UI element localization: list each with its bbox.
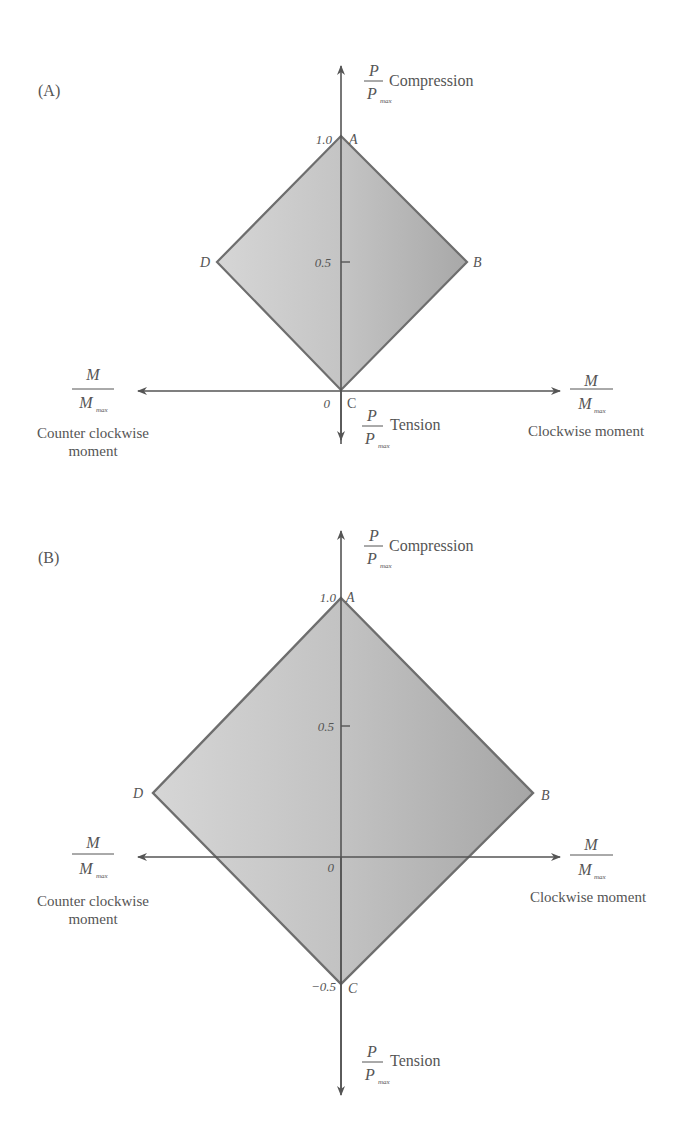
svg-text:P: P	[368, 527, 379, 544]
svg-text:P: P	[366, 85, 377, 102]
svg-text:max: max	[594, 873, 607, 881]
vertex-d: D	[132, 786, 143, 801]
svg-text:P: P	[366, 407, 377, 424]
tick-label-1-0: 1.0	[320, 590, 337, 605]
svg-text:P: P	[364, 1066, 375, 1083]
svg-text:P: P	[364, 430, 375, 447]
svg-text:moment: moment	[68, 443, 118, 459]
vertex-b: B	[541, 788, 550, 803]
compression-label: P P max Compression	[364, 527, 473, 570]
counter-clockwise-moment-label: M M max Counter clockwise moment	[37, 834, 149, 927]
tick-label-0-5: 0.5	[318, 719, 335, 734]
vertex-c: C	[347, 396, 356, 411]
panel-b: (B) 1.0 0.5 0 −0.5 A B C D P P max Compr…	[37, 527, 647, 1095]
svg-text:M: M	[78, 860, 94, 877]
tension-label: P P max Tension	[362, 1043, 440, 1086]
svg-text:P: P	[366, 1043, 377, 1060]
compression-label: P P max Compression	[364, 62, 473, 105]
tick-label-1-0: 1.0	[316, 132, 333, 147]
svg-text:max: max	[380, 562, 393, 570]
svg-text:M: M	[85, 834, 101, 851]
svg-text:Clockwise moment: Clockwise moment	[530, 889, 647, 905]
svg-text:Tension: Tension	[390, 1052, 440, 1069]
panel-a-label: (A)	[38, 82, 60, 100]
svg-text:M: M	[577, 861, 593, 878]
vertex-a: A	[348, 132, 358, 147]
clockwise-moment-label: M M max Clockwise moment	[530, 836, 647, 905]
svg-text:Counter clockwise: Counter clockwise	[37, 893, 149, 909]
svg-text:max: max	[378, 1078, 391, 1086]
svg-text:M: M	[583, 372, 599, 389]
tension-label: P P max Tension	[362, 407, 440, 450]
tick-label-0-5: 0.5	[315, 255, 332, 270]
svg-text:max: max	[380, 97, 393, 105]
svg-text:Compression: Compression	[389, 72, 473, 90]
svg-text:M: M	[577, 395, 593, 412]
svg-text:max: max	[594, 407, 607, 415]
svg-text:max: max	[378, 442, 391, 450]
vertex-a: A	[345, 590, 355, 605]
svg-text:M: M	[85, 366, 101, 383]
svg-text:Clockwise moment: Clockwise moment	[528, 423, 645, 439]
clockwise-moment-label: M M max Clockwise moment	[528, 372, 645, 439]
counter-clockwise-moment-label: M max M max Counter clockwise moment	[37, 366, 149, 459]
vertex-c: C	[348, 981, 358, 996]
vertex-d: D	[199, 255, 210, 270]
panel-b-label: (B)	[38, 549, 59, 567]
interaction-region-a	[217, 136, 467, 390]
svg-text:Compression: Compression	[389, 537, 473, 555]
svg-text:P: P	[366, 550, 377, 567]
origin-label: 0	[324, 396, 331, 411]
panel-a: (A) 1.0 0.5 0 A B C D P P max Compressio…	[37, 62, 645, 459]
interaction-diagrams: (A) 1.0 0.5 0 A B C D P P max Compressio…	[0, 0, 679, 1137]
svg-text:P: P	[368, 62, 379, 79]
svg-text:max: max	[96, 872, 109, 880]
vertex-b: B	[473, 255, 482, 270]
svg-text:Tension: Tension	[390, 416, 440, 433]
svg-text:max: max	[96, 406, 109, 414]
svg-text:moment: moment	[68, 911, 118, 927]
interaction-region-b	[153, 598, 533, 984]
svg-text:M: M	[78, 394, 94, 411]
origin-label: 0	[328, 860, 335, 875]
svg-text:M: M	[583, 836, 599, 853]
svg-text:Counter clockwise: Counter clockwise	[37, 425, 149, 441]
tick-label-neg-0-5: −0.5	[311, 979, 337, 994]
